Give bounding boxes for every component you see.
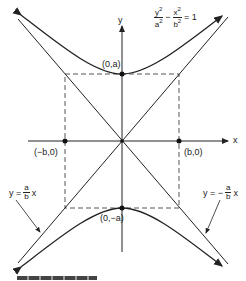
right-asymptote-pointer	[206, 200, 220, 233]
fraction-x-over-b: x2 b2	[173, 6, 182, 28]
top-vertex-point	[120, 72, 125, 77]
left-asymptote-label: y = ab x	[9, 184, 36, 201]
right-co-vertex-label: (b,0)	[184, 148, 203, 157]
equals-one: = 1	[184, 12, 197, 22]
left-co-vertex-label: (−b,0)	[34, 148, 58, 157]
minus-sign: −	[165, 12, 170, 22]
hyperbola-equation: y2 a2 − x2 b2 = 1	[154, 6, 197, 28]
top-vertex-label: (0,a)	[102, 60, 121, 69]
x-axis-label: x	[233, 136, 238, 145]
right-asymptote-label: y = − ab x	[203, 184, 238, 201]
hyperbola-diagram	[0, 0, 246, 281]
bottom-vertex-point	[120, 206, 125, 211]
left-asymptote-pointer	[16, 200, 40, 232]
caption-fragment	[17, 276, 97, 280]
origin-point	[120, 139, 124, 143]
bottom-vertex-label: (0,−a)	[100, 214, 124, 223]
fraction-y-over-a: y2 a2	[154, 6, 163, 28]
y-axis-label: y	[118, 16, 123, 25]
left-co-vertex-point	[63, 139, 68, 144]
right-co-vertex-point	[177, 139, 182, 144]
